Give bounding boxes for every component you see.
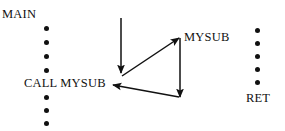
arrow-layer — [0, 0, 285, 131]
return-to-main-arrow — [113, 85, 179, 97]
call-to-mysub-arrow — [122, 38, 179, 76]
subroutine-call-diagram: MAIN CALL MYSUB MYSUB RET — [0, 0, 285, 131]
